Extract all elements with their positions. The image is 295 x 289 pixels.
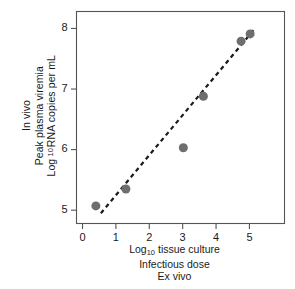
scatter-point bbox=[246, 29, 255, 38]
y-axis-title-line-2: Peak plasma viremia bbox=[33, 66, 46, 165]
x-tick-label: 5 bbox=[239, 231, 259, 243]
x-axis-title-line-3: Ex vivo bbox=[62, 270, 287, 283]
y-axis-title-log-text: Log bbox=[45, 159, 57, 177]
x-tick-label: 2 bbox=[139, 231, 159, 243]
y-axis-title-line-3: Log10 RNA copies per mL bbox=[45, 55, 58, 177]
x-tick-label: 4 bbox=[206, 231, 226, 243]
y-axis-title-line-1: In vivo bbox=[20, 100, 33, 131]
plot-border bbox=[77, 12, 285, 224]
x-tick-label: 0 bbox=[73, 231, 93, 243]
x-axis-title-tissue-text: tissue culture bbox=[155, 243, 220, 255]
scatter-point bbox=[237, 37, 246, 46]
axis-ticks bbox=[71, 28, 249, 229]
x-tick-label: 3 bbox=[173, 231, 193, 243]
y-axis-title-rna-text: RNA copies per mL bbox=[45, 55, 57, 150]
scatter-point bbox=[179, 143, 188, 152]
scatter-point bbox=[121, 184, 130, 193]
y-tick-label: 6 bbox=[51, 142, 68, 154]
scatter-point bbox=[91, 201, 100, 210]
axes-frame bbox=[77, 12, 285, 224]
y-tick-label: 8 bbox=[51, 21, 68, 33]
x-axis-title-line-2: Infectious dose bbox=[62, 258, 287, 271]
x-axis-title-log-text: Log bbox=[129, 243, 147, 255]
y-tick-label: 7 bbox=[51, 82, 68, 94]
x-axis-title-log-subscript: 10 bbox=[147, 248, 155, 257]
x-axis-title-line-1: Log10 tissue culture bbox=[62, 243, 287, 258]
y-tick-label: 5 bbox=[51, 203, 68, 215]
scatter-point bbox=[199, 92, 208, 101]
chart-figure: In vivo Peak plasma viremia Log10 RNA co… bbox=[0, 0, 295, 289]
y-axis-title: In vivo Peak plasma viremia Log10 RNA co… bbox=[8, 10, 70, 222]
x-axis-title: Log10 tissue culture Infectious dose Ex … bbox=[62, 243, 287, 283]
x-tick-label: 1 bbox=[106, 231, 126, 243]
